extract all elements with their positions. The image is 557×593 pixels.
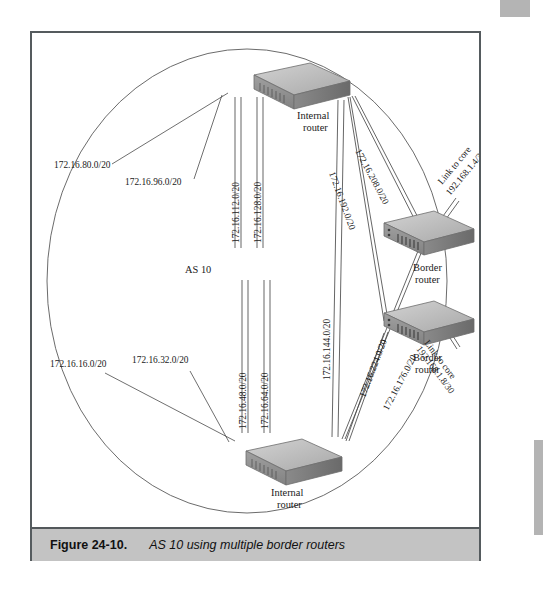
leaders-bottom-left: [105, 371, 235, 442]
border-router-upper-label-line1: Border: [413, 262, 442, 273]
subnet-label-top-left-inner: 172.16.96.0/20: [125, 177, 182, 187]
link-backbone: [332, 100, 344, 437]
internal-router-top-label-line2: router: [303, 122, 328, 133]
network-diagram: Internal router: [32, 33, 479, 526]
border-router-upper-label-line2: router: [415, 274, 440, 285]
core-link-upper-label: Link to core 192.168.1.4/30: [436, 145, 479, 198]
subnet-label-bottom-left-inner: 172.16.32.0/20: [132, 355, 189, 365]
subnet-label-backbone: 172.16.144.0/20: [322, 318, 332, 380]
figure-caption-text: AS 10 using multiple border routers: [149, 538, 345, 552]
as-label: AS 10: [185, 264, 211, 275]
figure-caption-bar: Figure 24-10. AS 10 using multiple borde…: [32, 527, 479, 561]
subnet-label-bottom-vert-right: 172.16.64.0/20: [260, 372, 270, 429]
subnet-label-to-border-lower-b: 172.16.224.0/20: [358, 338, 389, 399]
internal-router-bottom-label-line1: Internal: [271, 487, 303, 498]
subnet-label-bottom-vert-left: 172.16.48.0/20: [238, 372, 248, 429]
as-boundary-ellipse: [47, 49, 447, 513]
border-router-upper[interactable]: Border router: [384, 211, 474, 285]
figure-caption-label: Figure 24-10.: [50, 538, 127, 552]
page-header-remnant: [392, 0, 512, 11]
figure-frame: Internal router: [30, 31, 481, 561]
subnet-label-top-left-outer: 172.16.80.0/20: [54, 160, 111, 170]
subnet-label-to-border-lower-a: 172.16.176.0/20: [381, 353, 419, 412]
leaders-top-left: [112, 93, 228, 179]
subnet-label-top-vert-right: 172.16.128.0/20: [253, 181, 263, 243]
internal-router-bottom-label-line2: router: [277, 499, 302, 510]
internal-router-bottom[interactable]: Internal router: [246, 439, 342, 510]
internal-router-top-label-line1: Internal: [297, 110, 329, 121]
subnet-label-top-vert-left: 172.16.112.0/20: [231, 182, 241, 243]
links-top-to-borders: [348, 96, 425, 321]
subnet-label-bottom-left-outer: 172.16.16.0/20: [50, 359, 107, 369]
page-edge-tab-right: [534, 440, 543, 535]
scanned-page: Internal router: [0, 0, 557, 593]
subnet-label-to-border-upper-b: 172.16.208.0/20: [353, 147, 391, 206]
